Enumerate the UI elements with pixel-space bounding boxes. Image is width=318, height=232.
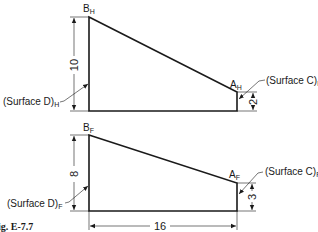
diagram-canvas: 10 2 BH AH (Surface D)H (Surface C)H (0, 0, 318, 232)
dimension-10-label: 10 (68, 59, 80, 71)
point-a-h-label: AH (230, 79, 242, 91)
dimension-3-label: 3 (246, 194, 258, 200)
surface-d-h-label: (Surface D)H (3, 96, 59, 108)
top-view-outline (89, 17, 237, 111)
point-b-f-label: BF (83, 122, 94, 134)
dimension-16-label: 16 (154, 220, 166, 232)
point-b-h-label: BH (83, 3, 95, 15)
surface-d-f-label: (Surface D)F (7, 198, 62, 210)
dimension-8-label: 8 (68, 171, 80, 177)
surface-d-f-leader (65, 186, 88, 203)
surface-c-h-label: (Surface C)H (266, 75, 318, 87)
surface-c-h-leader (239, 80, 265, 99)
dimension-2-label: 2 (247, 99, 259, 105)
figure-caption: ig. E-7.7 (0, 221, 33, 232)
front-view: 8 3 16 BF AF (Surface D)F (Surface C)F (7, 122, 318, 232)
top-view: 10 2 BH AH (Surface D)H (Surface C)H (3, 3, 318, 111)
surface-c-f-label: (Surface C)F (265, 166, 318, 178)
point-a-f-label: AF (229, 169, 240, 181)
front-view-outline (89, 135, 237, 211)
